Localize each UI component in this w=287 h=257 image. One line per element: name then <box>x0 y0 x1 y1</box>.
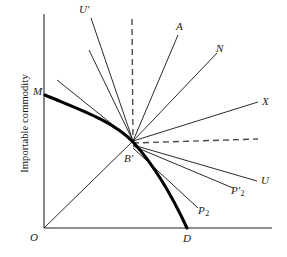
horizontal-dashed-line <box>133 139 258 143</box>
label-p2-sub: 2 <box>205 209 209 218</box>
label-a: A <box>176 21 183 32</box>
y-axis-label: Importable commodity <box>19 64 30 184</box>
ray-origin-to-equilibrium <box>44 141 133 228</box>
ray-to-p2 <box>133 148 198 208</box>
label-b-prime-mark: ′ <box>131 152 133 164</box>
label-u-prime-text: U <box>79 3 87 15</box>
label-m: M <box>33 86 42 97</box>
label-p2-prime-sub: 2 <box>240 189 244 198</box>
label-p2: P2 <box>198 205 209 218</box>
label-p2-prime-text: P <box>231 184 238 196</box>
ray-to-p2-prime <box>133 146 233 188</box>
label-origin: O <box>30 232 38 243</box>
label-b-prime: B′ <box>124 153 133 164</box>
line-upper-left-to-equilibrium <box>89 50 133 141</box>
ray-to-a <box>133 35 178 141</box>
diagram-canvas <box>0 0 287 257</box>
label-n: N <box>216 43 223 54</box>
production-possibility-frontier <box>45 95 187 228</box>
label-u: U <box>261 175 269 186</box>
line-u-prime-to-equilibrium <box>91 18 133 141</box>
label-p2-prime: P′2 <box>231 185 245 198</box>
label-u-prime: U′ <box>79 4 89 15</box>
label-p2-text: P <box>198 204 205 216</box>
vertical-dashed-line <box>132 19 133 141</box>
label-x: X <box>262 96 269 107</box>
label-d: D <box>183 233 191 244</box>
economics-diagram: Importable commodity M O D B′ U′ A N X U… <box>0 0 287 257</box>
label-b-prime-text: B <box>124 152 131 164</box>
label-u-prime-mark: ′ <box>87 3 89 15</box>
